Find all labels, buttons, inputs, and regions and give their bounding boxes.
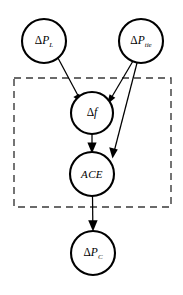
edge-delta-f-to-ace — [87, 134, 96, 154]
diagram-canvas: ΔPL ΔPtie Δf ACE ΔPC — [0, 0, 183, 295]
edge-delta-p-tie-to-delta-f — [107, 61, 133, 105]
delta-p-l-circle[interactable] — [22, 19, 66, 63]
delta-f-circle[interactable] — [71, 92, 113, 134]
edge-ace-to-delta-p-c — [88, 196, 97, 232]
delta-p-c-circle[interactable] — [71, 231, 115, 275]
delta-p-tie-circle[interactable] — [119, 19, 163, 63]
ace-circle[interactable] — [70, 152, 114, 196]
graph-svg — [0, 0, 183, 295]
